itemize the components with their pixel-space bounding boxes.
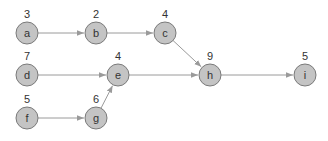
node-label: e [115,69,121,81]
edge-g-e [101,86,113,109]
nodes: a3b2c4d7e4h9i5f5g6 [16,8,316,129]
node-label: g [93,112,99,124]
node-label: d [24,69,30,81]
node-i: i5 [294,50,316,86]
node-weight: 7 [24,50,30,62]
node-c: c4 [154,8,176,44]
node-d: d7 [16,50,38,86]
node-e: e4 [107,50,129,86]
node-b: b2 [85,8,107,44]
node-label: h [207,69,213,81]
node-weight: 6 [93,93,99,105]
node-weight: 5 [24,93,30,105]
node-weight: 3 [24,8,30,20]
node-label: i [304,69,306,81]
node-weight: 4 [115,50,121,62]
node-f: f5 [16,93,38,129]
node-label: c [162,27,168,39]
node-a: a3 [16,8,38,44]
directed-graph: a3b2c4d7e4h9i5f5g6 [0,0,328,141]
node-g: g6 [85,93,107,129]
node-label: b [93,27,99,39]
node-weight: 9 [207,50,213,62]
edges [38,33,293,118]
node-weight: 4 [162,8,168,20]
node-weight: 2 [93,8,99,20]
node-weight: 5 [302,50,308,62]
node-label: a [24,27,31,39]
node-h: h9 [199,50,221,86]
edge-c-h [173,41,201,67]
